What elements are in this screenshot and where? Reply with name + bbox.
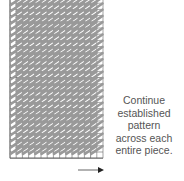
caption-line-1: Continue: [104, 94, 184, 107]
caption-line-4: across each: [104, 132, 184, 145]
instruction-caption: Continue established pattern across each…: [104, 94, 184, 157]
caption-line-2: established: [104, 107, 184, 120]
caption-line-3: pattern: [104, 119, 184, 132]
caption-line-5: entire piece.: [104, 144, 184, 157]
arrow-head-icon: [98, 167, 104, 173]
